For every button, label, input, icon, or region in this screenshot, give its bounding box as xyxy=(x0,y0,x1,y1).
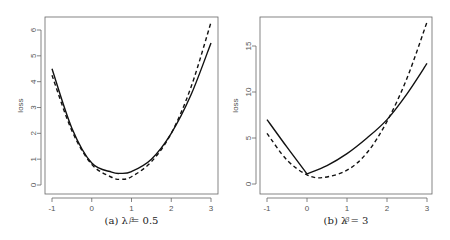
y-tick-label: 5 xyxy=(244,135,253,140)
chart-panel-b: -10123051015βloss(b) λ = 3 xyxy=(231,17,432,226)
x-tick-label: -1 xyxy=(48,204,56,213)
panel-caption: (a) λ = 0.5 xyxy=(105,215,159,226)
x-tick-label: 1 xyxy=(345,204,350,213)
y-tick-label: 0 xyxy=(29,182,38,187)
series-solid-line xyxy=(52,43,211,174)
x-tick-label: -1 xyxy=(263,204,271,213)
y-tick-label: 6 xyxy=(29,27,38,32)
series-dashed-line xyxy=(52,22,211,179)
y-tick-label: 4 xyxy=(29,79,38,84)
y-tick-label: 3 xyxy=(29,105,38,110)
x-tick-label: 0 xyxy=(305,204,310,213)
x-tick-label: 3 xyxy=(209,204,214,213)
plot-frame xyxy=(260,17,432,194)
y-tick-label: 5 xyxy=(29,53,38,58)
y-tick-label: 2 xyxy=(29,131,38,136)
y-axis: 051015 xyxy=(244,41,256,186)
x-tick-label: 3 xyxy=(425,204,430,213)
x-tick-label: 2 xyxy=(385,204,390,213)
y-tick-label: 1 xyxy=(29,156,38,161)
y-tick-label: 10 xyxy=(244,87,253,96)
x-axis: -10123 xyxy=(48,198,213,213)
figure: -101230123456βloss(a) λ = 0.5-1012305101… xyxy=(0,0,450,240)
panel-caption: (b) λ = 3 xyxy=(324,215,369,226)
x-tick-label: 0 xyxy=(90,204,95,213)
series-solid-line xyxy=(267,63,427,173)
x-tick-label: 1 xyxy=(129,204,134,213)
y-axis-title: loss xyxy=(231,98,240,112)
x-axis: -10123 xyxy=(263,198,429,213)
chart-panel-a: -101230123456βloss(a) λ = 0.5 xyxy=(16,17,218,226)
y-tick-label: 15 xyxy=(244,41,253,50)
y-axis-title: loss xyxy=(16,98,25,112)
y-tick-label: 0 xyxy=(244,181,253,186)
plot-frame xyxy=(45,17,218,194)
x-tick-label: 2 xyxy=(169,204,174,213)
y-axis: 0123456 xyxy=(29,27,41,187)
